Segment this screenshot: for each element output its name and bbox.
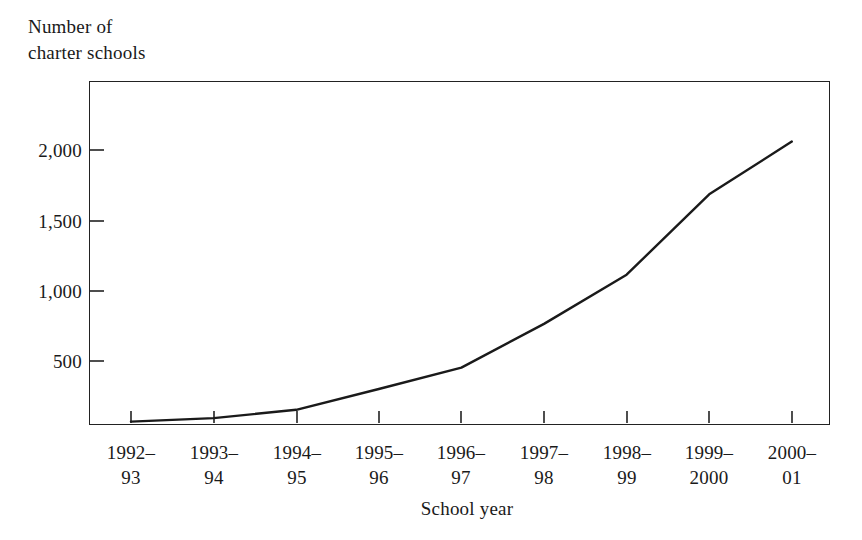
y-tick-label: 2,000 (8, 141, 82, 160)
x-tick-label-line1: 1994– (273, 442, 322, 463)
x-tick-label-line1: 1997– (520, 442, 569, 463)
x-tick-label-line2: 97 (451, 467, 470, 488)
x-tick-label-line2: 2000 (690, 467, 729, 488)
x-tick-label-line2: 95 (287, 467, 306, 488)
plot-svg (90, 82, 828, 423)
data-series-line (131, 142, 792, 422)
x-tick-label-line2: 01 (782, 467, 801, 488)
x-tick-label-line1: 2000– (768, 442, 817, 463)
x-tick-label-line1: 1998– (603, 442, 652, 463)
x-tick-label-line2: 93 (121, 467, 140, 488)
y-tick-label: 1,000 (8, 282, 82, 301)
x-tick-label-line1: 1992– (107, 442, 156, 463)
x-tick-label-line1: 1996– (437, 442, 486, 463)
x-tick-label-line1: 1993– (190, 442, 239, 463)
y-tick-label: 1,500 (8, 212, 82, 231)
x-tick-label-line2: 99 (617, 467, 636, 488)
x-axis-title: School year (0, 498, 862, 520)
x-tick-label-line2: 96 (369, 467, 388, 488)
charter-schools-line-chart: Number of charter schools 2,000 1,500 1,… (0, 0, 862, 540)
plot-area (89, 81, 830, 425)
x-axis-title-text: School year (421, 498, 513, 520)
x-tick-label-line1: 1999– (685, 442, 734, 463)
x-tick-label-line1: 1995– (355, 442, 404, 463)
y-tick-label: 500 (8, 352, 82, 371)
x-tick-label: 2000–01 (737, 440, 847, 490)
x-tick-label-line2: 94 (204, 467, 223, 488)
x-axis-tick-labels: 1992–93 1993–94 1994–95 1995–96 1996–97 … (0, 440, 862, 500)
y-axis-ticks (90, 150, 104, 361)
x-tick-label-line2: 98 (534, 467, 553, 488)
